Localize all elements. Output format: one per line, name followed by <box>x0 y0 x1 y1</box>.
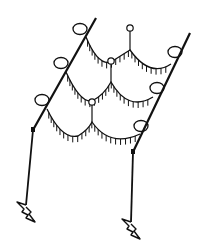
right-pole-joint <box>131 149 135 154</box>
left-pole-lower <box>26 130 33 205</box>
left-ring-2 <box>54 58 68 69</box>
middle-garland <box>66 72 153 102</box>
right-pole-lower <box>131 152 133 222</box>
diagram-canvas <box>0 0 205 249</box>
left-pole-upper <box>33 18 96 130</box>
net-structure-drawing <box>0 0 205 249</box>
lower-hanger-ring <box>89 99 95 105</box>
left-pole-joint <box>31 127 35 132</box>
right-pole-upper <box>133 33 190 152</box>
right-pole-anchor-foot-icon <box>122 219 140 239</box>
bottom-garland <box>47 109 140 139</box>
middle-hanger-ring <box>108 58 114 64</box>
left-pole-anchor-foot-icon <box>17 202 35 222</box>
top-hanger-ring <box>127 25 133 31</box>
left-ring-1 <box>73 24 87 35</box>
